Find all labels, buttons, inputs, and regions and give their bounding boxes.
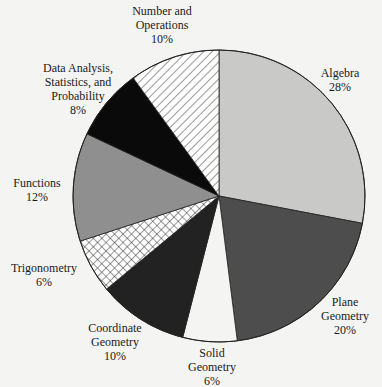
label-solid-geometry: Solid Geometry 6% <box>167 346 257 387</box>
label-text: Statistics, and <box>28 75 128 89</box>
label-trigonometry: Trigonometry 6% <box>2 261 86 289</box>
label-text: Geometry <box>167 360 257 374</box>
label-text: Data Analysis, <box>28 61 128 75</box>
label-text: Algebra <box>300 66 380 80</box>
label-algebra: Algebra 28% <box>300 66 380 94</box>
label-text: Functions <box>2 176 72 190</box>
label-number-operations: Number and Operations 10% <box>117 4 207 46</box>
label-pct: 10% <box>117 32 207 46</box>
label-data-analysis: Data Analysis, Statistics, and Probabili… <box>28 61 128 117</box>
label-pct: 28% <box>300 80 380 94</box>
label-coordinate-geometry: Coordinate Geometry 10% <box>70 321 160 363</box>
label-text: Coordinate <box>70 321 160 335</box>
label-text: Plane <box>305 295 382 309</box>
label-text: Probability <box>28 89 128 103</box>
label-text: Number and <box>117 4 207 18</box>
label-pct: 8% <box>28 103 128 117</box>
label-pct: 6% <box>2 275 86 289</box>
label-text: Geometry <box>70 335 160 349</box>
label-text: Solid <box>167 346 257 360</box>
label-text: Operations <box>117 18 207 32</box>
label-functions: Functions 12% <box>2 176 72 204</box>
label-pct: 10% <box>70 349 160 363</box>
label-pct: 12% <box>2 190 72 204</box>
label-plane-geometry: Plane Geometry 20% <box>305 295 382 337</box>
label-text: Trigonometry <box>2 261 86 275</box>
label-pct: 20% <box>305 323 382 337</box>
label-text: Geometry <box>305 309 382 323</box>
label-pct: 6% <box>167 374 257 387</box>
